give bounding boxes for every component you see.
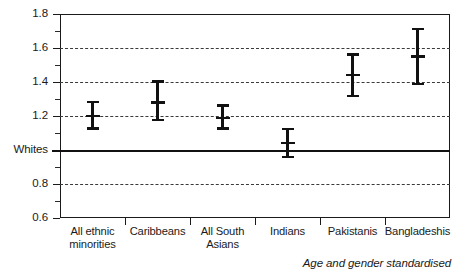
gridline bbox=[60, 116, 450, 117]
y-axis-label: 1.6 bbox=[32, 42, 48, 54]
y-axis-tick-minor bbox=[55, 133, 60, 134]
chart-caption: Age and gender standardised bbox=[303, 257, 451, 269]
y-axis-label: 1.4 bbox=[32, 76, 48, 88]
y-axis-tick-major bbox=[53, 116, 60, 117]
y-axis-label: 1.2 bbox=[32, 110, 48, 122]
error-bar-cap-upper bbox=[282, 128, 294, 131]
data-point-marker bbox=[346, 74, 360, 76]
data-point-marker bbox=[86, 115, 100, 117]
error-bar-cap-upper bbox=[87, 101, 99, 104]
x-axis-tick bbox=[255, 218, 256, 225]
error-bar-cap-upper bbox=[347, 53, 359, 56]
x-axis-tick bbox=[385, 218, 386, 225]
x-axis-tick bbox=[320, 218, 321, 225]
y-axis-label-whites: Whites bbox=[13, 144, 48, 156]
error-bar-cap-lower bbox=[217, 127, 229, 130]
y-axis-tick-minor bbox=[55, 99, 60, 100]
x-axis-tick bbox=[190, 218, 191, 225]
gridline bbox=[60, 48, 450, 49]
y-axis-label: 1.8 bbox=[32, 8, 48, 20]
y-axis-tick-minor bbox=[55, 31, 60, 32]
error-bar-cap-lower bbox=[152, 119, 164, 122]
gridline bbox=[60, 184, 450, 185]
y-axis-tick-major bbox=[53, 82, 60, 83]
y-axis-tick-major bbox=[53, 48, 60, 49]
error-bar-cap-upper bbox=[217, 104, 229, 107]
y-axis-tick-major bbox=[53, 218, 60, 219]
data-point-marker bbox=[281, 142, 295, 144]
error-bar-cap-upper bbox=[412, 28, 424, 31]
reference-line-whites bbox=[52, 150, 450, 152]
x-axis-label: Bangladeshis bbox=[379, 225, 456, 238]
y-axis-tick-minor bbox=[55, 201, 60, 202]
y-axis-tick-major bbox=[53, 14, 60, 15]
y-axis-tick-minor bbox=[55, 167, 60, 168]
chart-figure: 1.81.61.41.2Whites0.80.6All ethnic minor… bbox=[0, 0, 459, 273]
y-axis-label: 0.6 bbox=[32, 212, 48, 224]
error-bar-cap-upper bbox=[152, 80, 164, 83]
error-bar-cap-lower bbox=[347, 95, 359, 98]
y-axis-label: 0.8 bbox=[32, 178, 48, 190]
y-axis-tick-major bbox=[53, 184, 60, 185]
data-point-marker bbox=[151, 101, 165, 103]
data-point-marker bbox=[216, 117, 230, 119]
y-axis-tick-minor bbox=[55, 65, 60, 66]
data-point-marker bbox=[411, 55, 425, 57]
error-bar-cap-lower bbox=[282, 156, 294, 159]
gridline bbox=[60, 82, 450, 83]
x-axis-tick bbox=[125, 218, 126, 225]
error-bar-cap-lower bbox=[412, 83, 424, 86]
error-bar-cap-lower bbox=[87, 127, 99, 130]
